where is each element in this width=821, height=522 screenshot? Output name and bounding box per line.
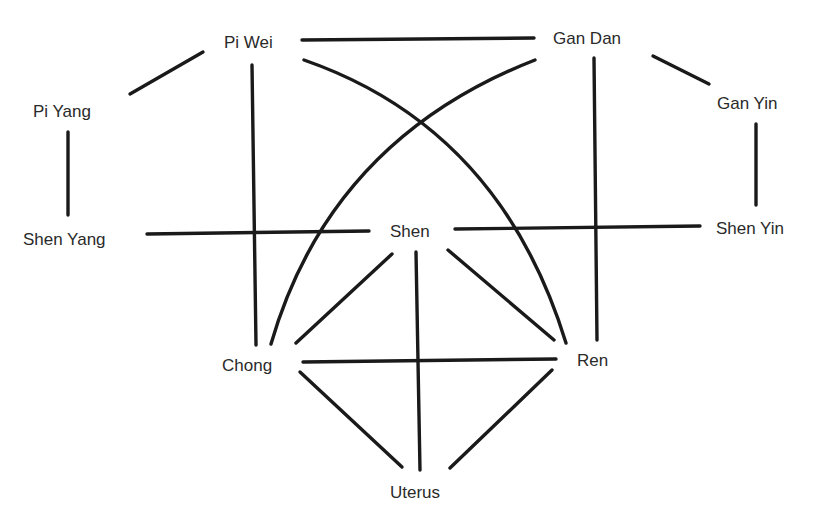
node-pi-wei: Pi Wei [224, 34, 273, 51]
network-diagram [0, 0, 821, 522]
node-gan-dan: Gan Dan [553, 30, 621, 47]
edge-pi-wei-to-chong [252, 65, 256, 345]
edge-pi-wei-to-gan-dan [302, 38, 534, 40]
edge-ren-to-uterus [450, 370, 552, 468]
edge-shen-to-shen-yin [455, 226, 700, 229]
edge-shen-to-ren [448, 250, 554, 340]
node-ren: Ren [577, 352, 608, 369]
node-chong: Chong [222, 357, 272, 374]
edge-gan-dan-to-chong [271, 60, 535, 344]
edge-chong-to-uterus [300, 372, 402, 467]
node-shen: Shen [390, 223, 430, 240]
edge-chong-to-ren [303, 359, 556, 362]
edge-gan-dan-to-gan-yin [653, 56, 709, 84]
node-uterus: Uterus [390, 484, 440, 501]
edge-shen-to-chong [296, 254, 392, 343]
edge-shen-yang-to-shen [147, 231, 369, 234]
edge-gan-dan-to-ren [594, 58, 597, 340]
edge-pi-yang-to-pi-wei [130, 52, 203, 94]
node-shen-yang: Shen Yang [23, 231, 106, 248]
node-pi-yang: Pi Yang [33, 103, 91, 120]
node-shen-yin: Shen Yin [716, 220, 784, 237]
edges-group [68, 38, 756, 470]
node-gan-yin: Gan Yin [717, 95, 778, 112]
